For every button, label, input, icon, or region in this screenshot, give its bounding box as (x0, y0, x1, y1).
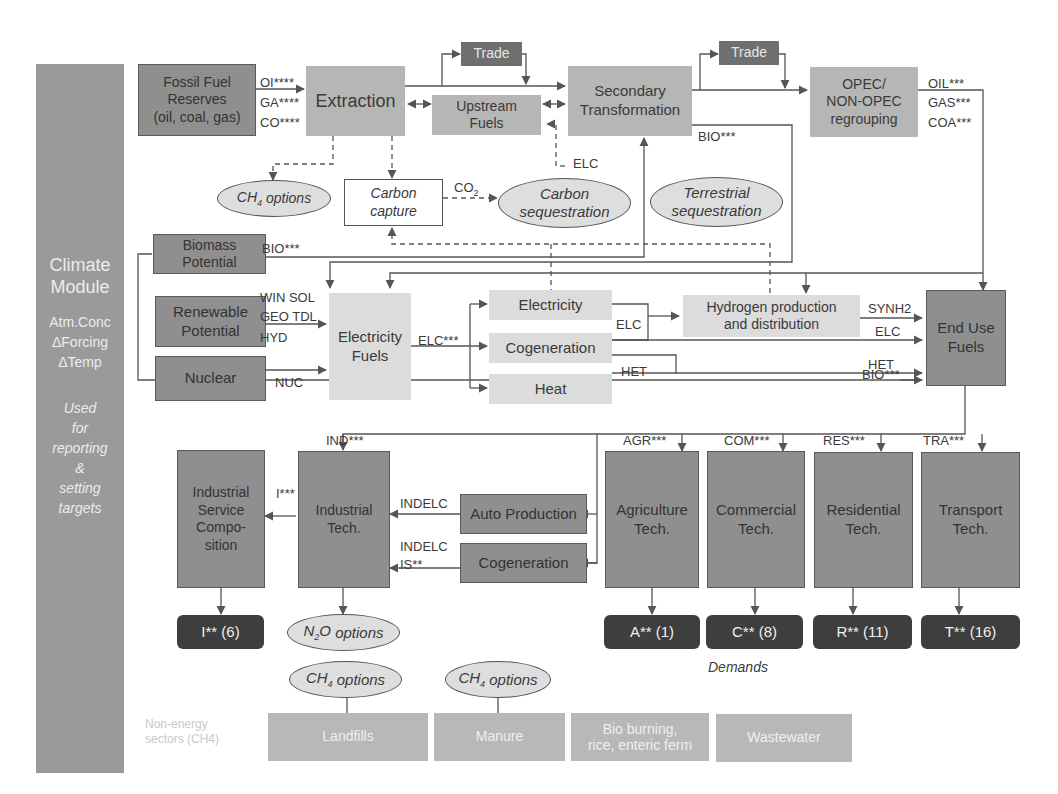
box-line: Transformation (580, 101, 680, 120)
box-line: Reserves (167, 91, 226, 109)
ch4-formula: CH4 (458, 669, 489, 690)
cogeneration-label: Cogeneration (478, 554, 568, 573)
demand-badge-commercial[interactable]: C** (8) (706, 615, 803, 649)
label-elc-mid: ELC (616, 318, 641, 331)
bio-burning-box[interactable]: Bio burning, rice, enteric ferm (571, 713, 709, 761)
label-het-heat: HET (621, 365, 647, 378)
demand-badge-residential[interactable]: R** (11) (813, 615, 912, 649)
extraction-box[interactable]: Extraction (306, 66, 405, 136)
options-label: options (489, 671, 537, 689)
label-bio-end: BIO*** (862, 368, 900, 381)
auto-production-label: Auto Production (470, 505, 577, 524)
ch4-options-manure[interactable]: CH4 options (445, 661, 551, 698)
box-line: Compo- (196, 519, 246, 537)
transport-tech-box[interactable]: Transport Tech. (921, 452, 1020, 588)
box-line: capture (370, 203, 417, 221)
box-line: Potential (182, 254, 236, 272)
hydrogen-production-box[interactable]: Hydrogen production and distribution (683, 295, 860, 337)
opec-regrouping-box[interactable]: OPEC/ NON-OPEC regrouping (810, 67, 918, 137)
box-line: Hydrogen production (707, 299, 837, 317)
demand-badge-agriculture[interactable]: A** (1) (604, 615, 700, 649)
co2-label: CO2 (454, 181, 479, 198)
trade-label: Trade (473, 45, 509, 63)
box-line: Transport (939, 501, 1003, 520)
carbon-sequestration-ellipse[interactable]: Carbon sequestration (498, 178, 631, 228)
carbon-capture-box[interactable]: Carbon capture (344, 179, 443, 226)
heat-label: Heat (535, 380, 567, 399)
ch4-options-extraction[interactable]: CH4 options (217, 180, 331, 217)
industrial-service-composition-box[interactable]: Industrial Service Compo- sition (177, 450, 265, 588)
box-line: Tech. (327, 520, 360, 538)
heat-box[interactable]: Heat (489, 374, 612, 404)
industrial-cogeneration-box[interactable]: Cogeneration (460, 543, 587, 583)
trade-box-2[interactable]: Trade (719, 41, 779, 65)
box-line: OPEC/ (842, 76, 886, 94)
climate-title-line1: Climate (49, 254, 110, 276)
label-com: COM*** (724, 434, 770, 447)
demand-badge-industrial[interactable]: I** (6) (177, 615, 264, 649)
secondary-transformation-box[interactable]: Secondary Transformation (568, 66, 692, 136)
box-line: sequestration (519, 203, 609, 221)
label-bio-secondary: BIO*** (698, 130, 736, 143)
sector-label-line: rice, enteric ferm (588, 737, 692, 753)
wastewater-box[interactable]: Wastewater (716, 714, 852, 762)
co2-text: CO (454, 180, 474, 195)
n2o-formula: N2O (303, 622, 335, 643)
box-line: sition (205, 537, 238, 555)
auto-production-box[interactable]: Auto Production (460, 494, 587, 534)
biomass-potential-box[interactable]: Biomass Potential (153, 234, 266, 274)
box-line: Tech. (953, 520, 989, 539)
box-line: Agriculture (616, 501, 688, 520)
box-line: Potential (181, 322, 239, 341)
terrestrial-sequestration-ellipse[interactable]: Terrestrial sequestration (650, 177, 783, 227)
box-line: Terrestrial (683, 184, 749, 202)
options-label: options (335, 624, 383, 642)
box-line: Tech. (738, 520, 774, 539)
landfills-box[interactable]: Landfills (268, 713, 428, 761)
label-nuc: NUC (275, 376, 303, 389)
nuclear-box[interactable]: Nuclear (155, 356, 266, 401)
label-indelc-cogen: INDELC (400, 540, 448, 553)
note-line: for (52, 418, 107, 438)
end-use-fuels-box[interactable]: End Use Fuels (926, 290, 1006, 386)
label-elc-fuels: ELC*** (418, 334, 458, 347)
non-energy-caption: Non-energy sectors (CH4) (145, 717, 219, 747)
box-line: Fuels (352, 347, 389, 366)
manure-box[interactable]: Manure (434, 713, 565, 761)
label-elc-end: ELC (875, 325, 900, 338)
label-ind: IND*** (326, 434, 364, 447)
fossil-fuel-reserves-box[interactable]: Fossil Fuel Reserves (oil, coal, gas) (138, 64, 256, 136)
box-line: sequestration (671, 202, 761, 220)
box-line: End Use (937, 319, 995, 338)
cogeneration-box[interactable]: Cogeneration (489, 333, 612, 363)
box-line: Biomass (183, 237, 237, 255)
residential-tech-box[interactable]: Residential Tech. (814, 452, 913, 588)
label-gas: GA**** (260, 96, 299, 109)
box-line: Secondary (594, 82, 666, 101)
label-is: IS** (400, 558, 422, 571)
electricity-box[interactable]: Electricity (489, 290, 612, 320)
box-line: Upstream (456, 98, 517, 116)
box-line: Residential (826, 501, 900, 520)
caption-line: sectors (CH4) (145, 732, 219, 747)
commercial-tech-box[interactable]: Commercial Tech. (707, 451, 805, 588)
ch4-formula: CH4 (237, 189, 266, 209)
label-oil-opec: OIL*** (928, 77, 964, 90)
sector-label: Manure (476, 728, 523, 746)
renewable-potential-box[interactable]: Renewable Potential (155, 296, 266, 347)
electricity-label: Electricity (518, 296, 582, 315)
trade-box-1[interactable]: Trade (461, 42, 522, 66)
agriculture-tech-box[interactable]: Agriculture Tech. (605, 451, 699, 588)
climate-note: Used for reporting & setting targets (52, 398, 107, 518)
industrial-tech-box[interactable]: Industrial Tech. (298, 451, 390, 588)
n2o-options-ellipse[interactable]: N2O options (287, 614, 400, 651)
upstream-fuels-box[interactable]: Upstream Fuels (432, 95, 541, 135)
label-agr: AGR*** (623, 434, 666, 447)
electricity-fuels-box[interactable]: Electricity Fuels (329, 293, 411, 400)
box-line: Industrial (316, 502, 373, 520)
ch4-formula: CH4 (306, 669, 337, 690)
label-oil: OI**** (260, 76, 294, 89)
ch4-options-landfills[interactable]: CH4 options (289, 661, 402, 698)
box-line: Carbon (371, 185, 417, 203)
demand-badge-transport[interactable]: T** (16) (921, 615, 1020, 649)
